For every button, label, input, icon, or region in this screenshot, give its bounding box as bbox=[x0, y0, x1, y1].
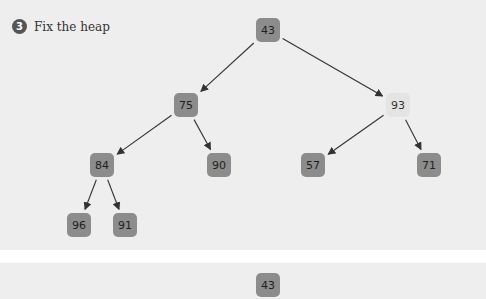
tree-edge-arrow bbox=[85, 180, 96, 209]
heap-node-43-root: 43 bbox=[256, 18, 280, 42]
heap-panel-step-3: 3 Fix the heap 43 75 93 84 90 57 71 96 9… bbox=[0, 0, 486, 250]
heap-node-91: 91 bbox=[113, 213, 137, 237]
heap-node-90: 90 bbox=[207, 153, 231, 177]
tree-edge-arrow bbox=[194, 120, 210, 150]
tree-edge-arrow bbox=[201, 43, 254, 91]
tree-edge-arrow bbox=[117, 115, 171, 154]
heap-node-96: 96 bbox=[67, 213, 91, 237]
tree-edge-arrow bbox=[283, 38, 383, 96]
tree-edge-arrow bbox=[406, 120, 421, 150]
next-heap-root-node: 43 bbox=[256, 273, 280, 297]
tree-edge-arrow bbox=[108, 180, 119, 209]
tree-edge-arrow bbox=[328, 115, 383, 154]
heap-node-84: 84 bbox=[90, 153, 114, 177]
heap-node-93-highlighted: 93 bbox=[386, 93, 410, 117]
next-step-panel: 43 bbox=[0, 263, 486, 299]
heap-node-71: 71 bbox=[417, 153, 441, 177]
heap-node-75: 75 bbox=[174, 93, 198, 117]
heap-node-57: 57 bbox=[301, 153, 325, 177]
